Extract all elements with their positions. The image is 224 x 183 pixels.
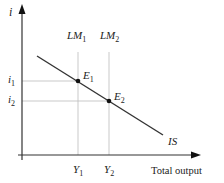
e1-label: E1 xyxy=(82,69,94,84)
is-curve xyxy=(37,56,163,135)
i2-label: i2 xyxy=(8,93,15,108)
y1-label: Y1 xyxy=(73,163,83,178)
x-axis-label: Total output xyxy=(151,165,202,176)
y-axis-arrow-icon xyxy=(19,4,26,14)
is-label: IS xyxy=(167,135,178,147)
y-axis-label: i xyxy=(9,5,12,19)
lm2-label: LM2 xyxy=(99,29,119,44)
i1-label: i1 xyxy=(8,73,15,88)
islm-diagram: i LM1 LM2 E1 E2 i1 i2 Y1 Y2 IS Total out… xyxy=(0,0,224,183)
lm1-label: LM1 xyxy=(66,29,86,44)
y2-label: Y2 xyxy=(104,163,114,178)
e2-label: E2 xyxy=(113,90,125,105)
x-axis-arrow-icon xyxy=(191,152,201,159)
e2-point xyxy=(107,99,112,104)
e1-point xyxy=(76,79,81,84)
